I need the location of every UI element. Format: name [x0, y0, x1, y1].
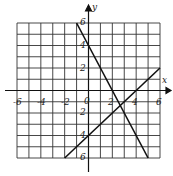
coordinate-plane: [0, 0, 173, 176]
x-tick-label: 2: [108, 98, 114, 107]
y-tick-label: 4: [80, 41, 86, 50]
y-tick-label: 6: [80, 18, 86, 27]
x-tick-label: -2: [61, 98, 70, 107]
origin-label: 0: [84, 97, 90, 106]
x-tick-label: 4: [132, 98, 138, 107]
x-axis-label: x: [162, 76, 167, 85]
y-tick-label: 2: [80, 64, 86, 73]
y-tick-label: 6: [80, 153, 86, 162]
x-tick-label: 6: [156, 98, 162, 107]
y-tick-label: 2: [80, 108, 86, 117]
y-tick-label: 4: [80, 131, 86, 140]
y-axis-label: y: [92, 3, 97, 12]
x-tick-label: -6: [13, 98, 22, 107]
x-tick-label: -4: [37, 98, 46, 107]
axis-arrow-icon: [86, 5, 172, 94]
